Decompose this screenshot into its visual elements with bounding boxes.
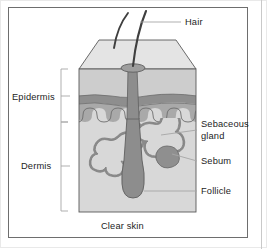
- label-sebum: Sebum: [201, 156, 231, 168]
- figure-caption: Clear skin: [101, 221, 144, 233]
- left-measure-brackets: [61, 69, 70, 211]
- epidermis-bracket: [61, 69, 68, 122]
- label-epidermis: Epidermis: [12, 92, 55, 104]
- label-follicle: Follicle: [201, 186, 231, 198]
- label-sebaceous-gland-line1: Sebaceous: [201, 119, 249, 131]
- label-dermis: Dermis: [21, 161, 51, 173]
- follicle-upper-canal: [127, 69, 139, 119]
- dermis-bracket: [61, 122, 68, 211]
- label-hair: Hair: [185, 17, 203, 29]
- label-sebaceous-gland-line2: gland: [201, 131, 249, 143]
- label-sebaceous-gland: Sebaceous gland: [201, 119, 249, 142]
- figure-canvas: Epidermis Dermis Hair Sebaceous gland Se…: [0, 0, 268, 249]
- sebum-blob: [156, 146, 180, 168]
